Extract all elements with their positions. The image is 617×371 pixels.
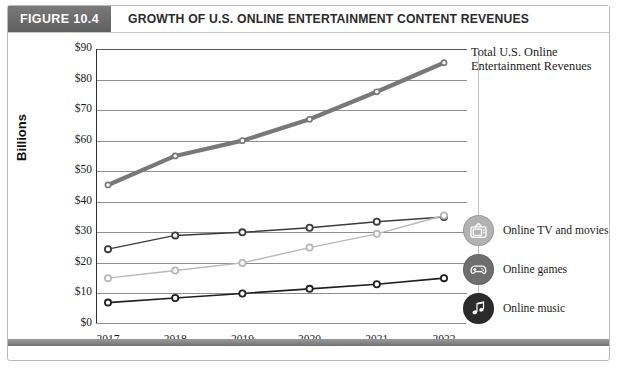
y-axis-tick-labels: $0$10$20$30$40$50$60$70$80$90 bbox=[18, 49, 92, 324]
series-line bbox=[108, 63, 444, 185]
series-plot bbox=[96, 49, 466, 324]
legend-item[interactable]: Online music bbox=[463, 289, 613, 328]
data-point-marker bbox=[173, 153, 178, 158]
figure-number-badge: FIGURE 10.4 bbox=[8, 6, 111, 32]
television-icon bbox=[463, 215, 494, 246]
total-series-annotation: Total U.S. Online Entertainment Revenues bbox=[471, 45, 601, 73]
series-line bbox=[108, 217, 444, 249]
data-point-marker bbox=[307, 245, 313, 251]
data-point-marker bbox=[441, 60, 446, 65]
y-axis-tick: $0 bbox=[48, 316, 92, 328]
data-point-marker bbox=[307, 117, 312, 122]
figure-title: GROWTH OF U.S. ONLINE ENTERTAINMENT CONT… bbox=[111, 6, 609, 32]
data-point-marker bbox=[105, 300, 111, 306]
data-point-marker bbox=[239, 290, 245, 296]
data-point-marker bbox=[105, 246, 111, 252]
data-point-marker bbox=[374, 89, 379, 94]
y-axis-tick: $40 bbox=[48, 194, 92, 206]
chart-legend: Online TV and moviesOnline gamesOnline m… bbox=[463, 211, 613, 328]
y-axis-tick: $30 bbox=[48, 224, 92, 236]
series-line bbox=[108, 278, 444, 302]
y-axis-tick: $20 bbox=[48, 255, 92, 267]
chart-area: Billions $0$10$20$30$40$50$60$70$80$90 2… bbox=[8, 33, 609, 339]
legend-item-label: Online music bbox=[503, 302, 565, 315]
data-point-marker bbox=[307, 286, 313, 292]
legend-item[interactable]: Online games bbox=[463, 250, 613, 289]
legend-item-label: Online TV and movies bbox=[503, 224, 609, 237]
data-point-marker bbox=[374, 281, 380, 287]
plot-area bbox=[96, 49, 466, 324]
data-point-marker bbox=[374, 231, 380, 237]
data-point-marker bbox=[307, 225, 313, 231]
data-point-marker bbox=[240, 138, 245, 143]
data-point-marker bbox=[441, 275, 447, 281]
data-point-marker bbox=[172, 232, 178, 238]
y-axis-tick: $90 bbox=[48, 41, 92, 53]
y-axis-tick: $50 bbox=[48, 163, 92, 175]
legend-item-label: Online games bbox=[503, 263, 567, 276]
figure-footer-bar bbox=[8, 339, 609, 346]
legend-item[interactable]: Online TV and movies bbox=[463, 211, 613, 250]
game-controller-icon bbox=[463, 254, 494, 285]
data-point-marker bbox=[239, 229, 245, 235]
series-line bbox=[108, 216, 444, 279]
data-point-marker bbox=[105, 275, 111, 281]
data-point-marker bbox=[441, 212, 447, 218]
y-axis-tick: $60 bbox=[48, 133, 92, 145]
music-note-icon bbox=[463, 293, 494, 324]
data-point-marker bbox=[172, 267, 178, 273]
y-axis-tick: $10 bbox=[48, 285, 92, 297]
figure-container: FIGURE 10.4 GROWTH OF U.S. ONLINE ENTERT… bbox=[7, 5, 610, 361]
y-axis-tick: $70 bbox=[48, 102, 92, 114]
y-axis-tick: $80 bbox=[48, 72, 92, 84]
data-point-marker bbox=[172, 295, 178, 301]
data-point-marker bbox=[105, 182, 110, 187]
figure-header: FIGURE 10.4 GROWTH OF U.S. ONLINE ENTERT… bbox=[8, 6, 609, 33]
data-point-marker bbox=[374, 219, 380, 225]
data-point-marker bbox=[239, 260, 245, 266]
